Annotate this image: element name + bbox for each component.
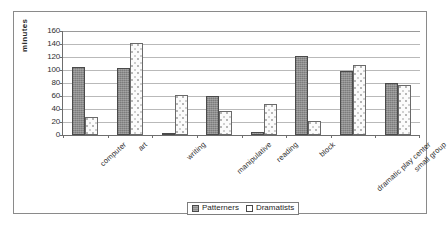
y-axis-tick-label: 140 [47, 40, 60, 48]
bar-group [152, 31, 197, 135]
chart-legend: PatternersDramatists [187, 202, 299, 215]
bar-patterners-small-group [385, 83, 398, 135]
bar-dramatists-manipulative [219, 111, 232, 135]
bar-group [286, 31, 331, 135]
y-axis-tick-label: 20 [52, 118, 61, 126]
x-axis-label-reading: reading [275, 140, 300, 164]
x-axis-label-block: block [317, 140, 336, 159]
chart-frame: minutes 020406080100120140160 computerar… [13, 11, 427, 214]
legend-entry-dramatists: Dramatists [246, 204, 294, 212]
legend-label: Patterners [202, 204, 239, 212]
y-axis-tick-label: 40 [52, 105, 61, 113]
bar-group [63, 31, 108, 135]
y-axis-tick-label: 160 [47, 27, 60, 35]
x-axis-label-manipulative: manipulative [235, 140, 273, 176]
legend-swatch-icon [192, 205, 199, 212]
bar-dramatists-block [308, 121, 321, 135]
bar-patterners-manipulative [206, 96, 219, 135]
bar-patterners-block [295, 56, 308, 135]
plot-area [62, 31, 420, 136]
bar-group [331, 31, 376, 135]
y-axis-tick-label: 100 [47, 66, 60, 74]
x-axis-label-computer: computer [98, 140, 128, 168]
bar-dramatists-reading [264, 104, 277, 135]
bar-group [108, 31, 153, 135]
bar-dramatists-art [130, 43, 143, 135]
bar-group [242, 31, 287, 135]
bar-patterners-computer [72, 67, 85, 135]
x-axis-tick-labels: computerartwritingmanipulativereadingblo… [62, 136, 420, 196]
y-axis-tick-labels: 020406080100120140160 [36, 31, 60, 136]
y-axis-title: minutes [20, 19, 29, 52]
bar-group [375, 31, 420, 135]
legend-entry-patterners: Patterners [192, 204, 239, 212]
y-axis-tick-label: 60 [52, 92, 61, 100]
bar-patterners-writing [162, 133, 175, 135]
bar-patterners-reading [251, 132, 264, 135]
x-axis-label-writing: writing [185, 140, 208, 162]
bar-dramatists-writing [175, 95, 188, 135]
bar-group [197, 31, 242, 135]
bar-dramatists-computer [85, 117, 98, 135]
y-axis-tick-label: 80 [52, 79, 61, 87]
legend-label: Dramatists [256, 204, 294, 212]
bar-patterners-dramatic-play-center [340, 71, 353, 135]
bar-patterners-art [117, 68, 130, 135]
bar-dramatists-small-group [398, 85, 411, 135]
x-axis-label-art: art [137, 140, 150, 153]
legend-swatch-icon [246, 205, 253, 212]
y-axis-tick-label: 120 [47, 53, 60, 61]
bar-dramatists-dramatic-play-center [353, 65, 366, 135]
